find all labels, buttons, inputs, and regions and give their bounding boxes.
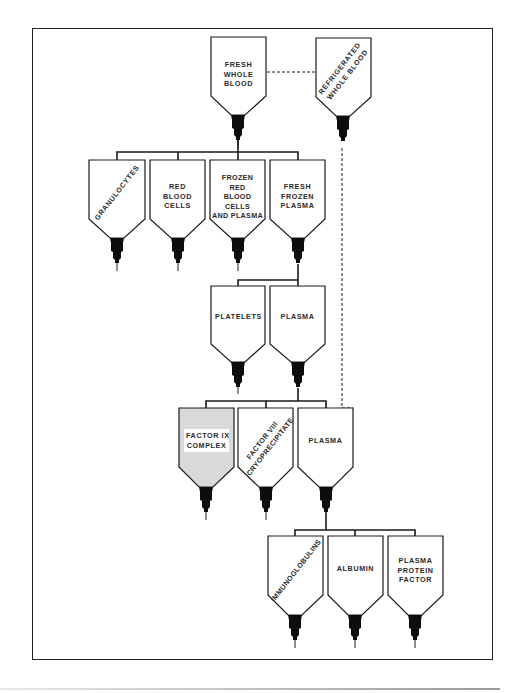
label-line: RED xyxy=(205,183,270,193)
connector-row3 xyxy=(238,264,298,286)
bag-red-blood-cells xyxy=(150,160,205,271)
label-line: PLASMA xyxy=(298,436,353,446)
bottom-rule xyxy=(0,688,500,690)
bag-fresh-frozen-plasma xyxy=(270,160,325,263)
label-line: BLOOD xyxy=(205,192,270,202)
label-plasma-protein-factor: PLASMA PROTEIN FACTOR xyxy=(388,556,443,585)
label-line: CELLS xyxy=(205,202,270,212)
label-line: FACTOR xyxy=(388,575,443,585)
label-line: FROZEN xyxy=(205,173,270,183)
label-line: FACTOR IX xyxy=(186,431,227,441)
label-plasma-1: PLASMA xyxy=(270,312,325,322)
label-line: AND PLASMA xyxy=(205,211,270,221)
label-line: PLASMA xyxy=(270,312,325,322)
label-line: FROZEN xyxy=(270,192,325,202)
label-line: PLATELETS xyxy=(206,312,271,322)
label-factor-ix-complex: FACTOR IX COMPLEX xyxy=(184,429,229,452)
label-line: COMPLEX xyxy=(186,441,227,451)
connector-row2 xyxy=(117,140,298,160)
label-plasma-2: PLASMA xyxy=(298,436,353,446)
label-fresh-whole-blood: FRESH WHOLE BLOOD xyxy=(211,60,266,89)
bag-albumin xyxy=(328,536,383,648)
label-line: WHOLE xyxy=(211,70,266,80)
connector-row4 xyxy=(206,388,326,408)
label-frozen-red-blood-cells-and-plasma: FROZEN RED BLOOD CELLS AND PLASMA xyxy=(205,173,270,221)
label-platelets: PLATELETS xyxy=(206,312,271,322)
label-line: PROTEIN xyxy=(388,566,443,576)
label-line: CELLS xyxy=(150,201,205,211)
label-line: BLOOD xyxy=(211,79,266,89)
label-line: BLOOD xyxy=(150,192,205,202)
bag-plasma-1 xyxy=(270,286,325,387)
bag-fresh-whole-blood xyxy=(211,37,266,148)
label-line: ALBUMIN xyxy=(328,564,383,574)
label-red-blood-cells: RED BLOOD CELLS xyxy=(150,182,205,211)
label-line: PLASMA xyxy=(388,556,443,566)
bag-platelets xyxy=(211,286,265,394)
label-albumin: ALBUMIN xyxy=(328,564,383,574)
flow-diagram xyxy=(0,0,523,693)
bag-factor-ix-complex xyxy=(179,408,234,520)
connector-row5 xyxy=(295,512,415,536)
label-line: RED xyxy=(150,182,205,192)
label-fresh-frozen-plasma: FRESH FROZEN PLASMA xyxy=(270,182,325,211)
bag-plasma-2 xyxy=(298,408,353,512)
label-line: FRESH xyxy=(270,182,325,192)
label-line: PLASMA xyxy=(270,201,325,211)
bag-plasma-protein-factor xyxy=(388,536,443,648)
label-line: FRESH xyxy=(211,60,266,70)
